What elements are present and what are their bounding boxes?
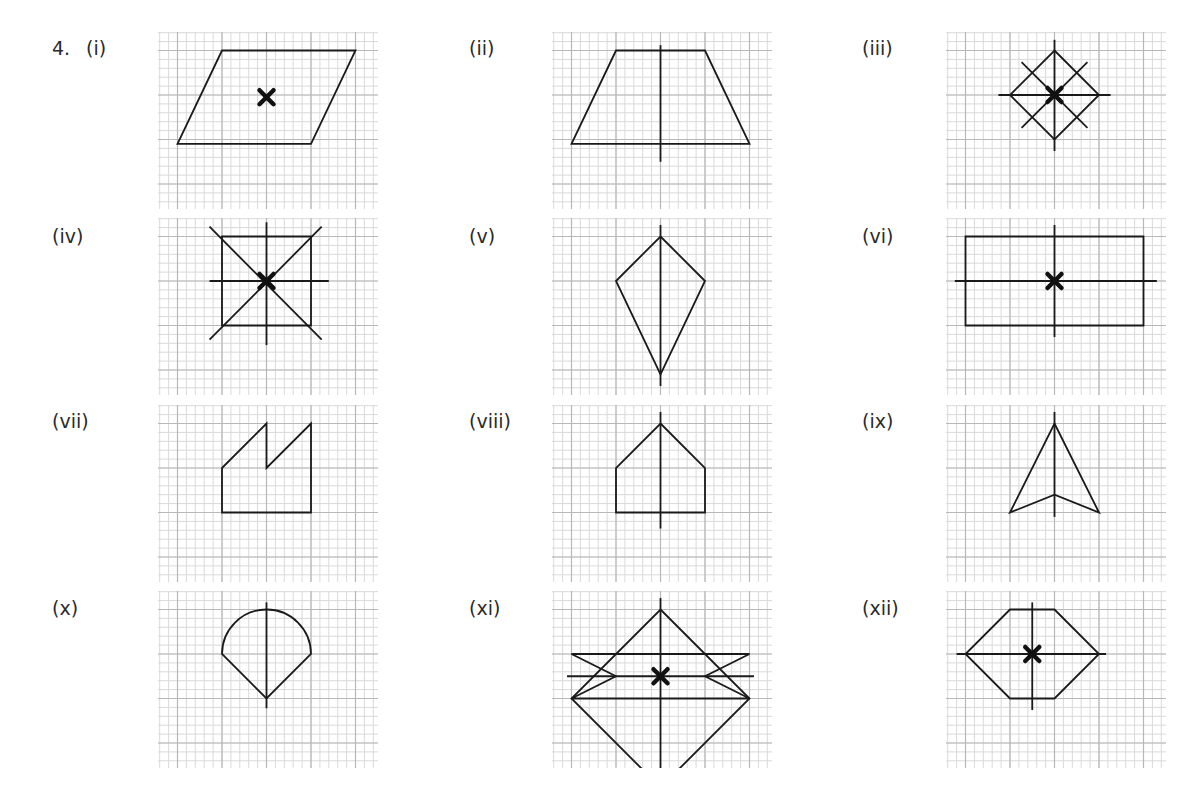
figure-panel-vii bbox=[158, 405, 378, 582]
figure-iv bbox=[158, 218, 378, 395]
panel-label: (xi) bbox=[469, 597, 500, 619]
figure-panel-iv bbox=[158, 218, 378, 395]
panel-label: (iv) bbox=[52, 225, 83, 247]
grid-paper bbox=[946, 405, 1166, 582]
panel-label: (viii) bbox=[469, 410, 511, 432]
grid-paper bbox=[158, 405, 378, 582]
figure-panel-x bbox=[158, 591, 378, 768]
panel-label: (i) bbox=[86, 37, 106, 59]
figure-panel-i bbox=[158, 32, 378, 209]
figure-panel-ii bbox=[552, 32, 772, 209]
figure-x bbox=[158, 591, 378, 768]
figure-i bbox=[158, 32, 378, 209]
figure-iii bbox=[946, 32, 1166, 209]
figure-xii bbox=[946, 591, 1166, 768]
grid-paper bbox=[946, 218, 1166, 395]
figure-panel-ix bbox=[946, 405, 1166, 582]
panel-label: (x) bbox=[52, 597, 78, 619]
figure-viii bbox=[552, 405, 772, 582]
figure-panel-xi bbox=[552, 591, 772, 768]
panel-label: (vi) bbox=[862, 225, 893, 247]
grid-paper bbox=[552, 405, 772, 582]
figure-vi bbox=[946, 218, 1166, 395]
panel-label: (vii) bbox=[52, 410, 89, 432]
figure-vii bbox=[158, 405, 378, 582]
grid-paper bbox=[946, 32, 1166, 209]
grid-paper bbox=[158, 591, 378, 768]
grid-paper bbox=[158, 32, 378, 209]
figure-panel-vi bbox=[946, 218, 1166, 395]
panel-label: (iii) bbox=[862, 37, 893, 59]
figure-panel-viii bbox=[552, 405, 772, 582]
grid-paper bbox=[158, 218, 378, 395]
panel-label: (ix) bbox=[862, 410, 893, 432]
grid-paper bbox=[552, 218, 772, 395]
figure-panel-v bbox=[552, 218, 772, 395]
figure-panel-xii bbox=[946, 591, 1166, 768]
panel-label: (ii) bbox=[469, 37, 494, 59]
panel-label: (v) bbox=[469, 225, 495, 247]
figure-v bbox=[552, 218, 772, 395]
figure-ii bbox=[552, 32, 772, 209]
figure-panel-iii bbox=[946, 32, 1166, 209]
panel-label: (xii) bbox=[862, 597, 899, 619]
figure-xi bbox=[552, 591, 772, 768]
figure-ix bbox=[946, 405, 1166, 582]
question-number: 4. bbox=[52, 37, 70, 59]
grid-paper bbox=[946, 591, 1166, 768]
